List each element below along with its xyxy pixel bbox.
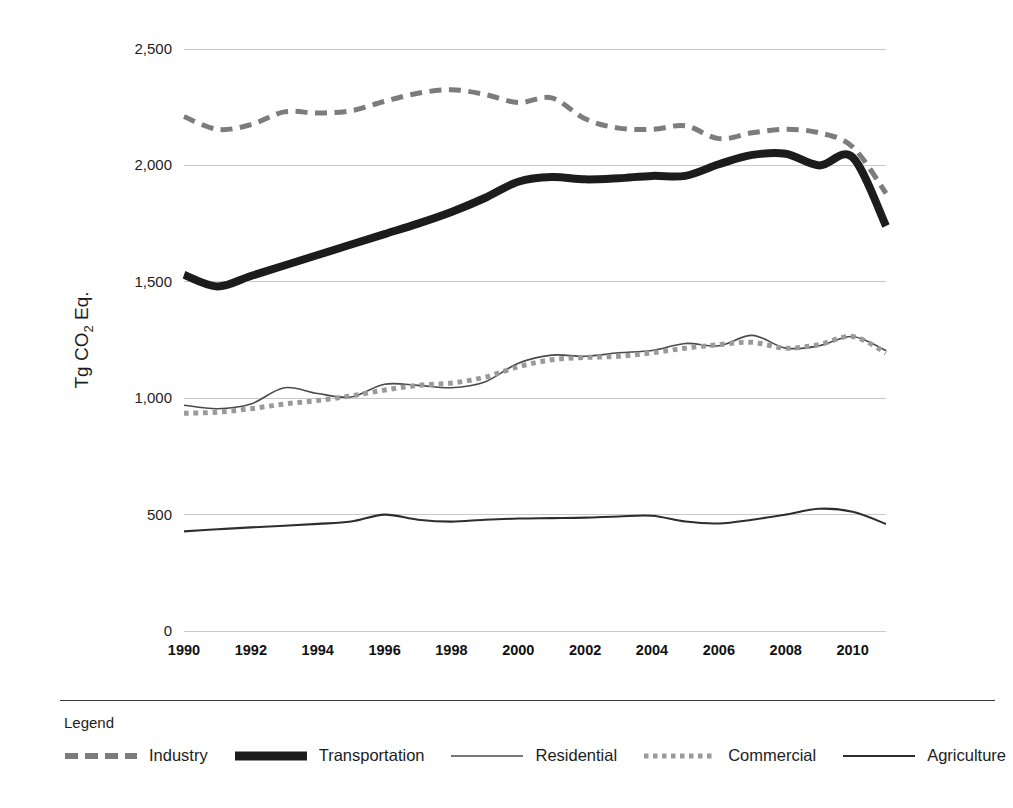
legend-item-agriculture[interactable]: Agriculture bbox=[842, 746, 1006, 765]
series-line-commercial bbox=[184, 336, 886, 413]
y-axis-tick-label: 0 bbox=[164, 622, 172, 639]
legend-swatch-thick-solid-icon bbox=[234, 749, 308, 763]
y-axis-tick-label: 2,000 bbox=[134, 156, 172, 173]
chart-plot-area: 05001,0001,5002,0002,5001990199219941996… bbox=[0, 0, 1013, 690]
legend-swatch-dotted-icon bbox=[643, 749, 717, 763]
legend-item-label: Agriculture bbox=[927, 746, 1006, 765]
legend-item-label: Commercial bbox=[728, 746, 816, 765]
x-axis-tick-label: 2004 bbox=[636, 642, 668, 658]
legend-item-label: Industry bbox=[149, 746, 208, 765]
legend-item-residential[interactable]: Residential bbox=[450, 746, 617, 765]
legend-separator bbox=[60, 700, 995, 701]
chart-legend: Legend IndustryTransportationResidential… bbox=[0, 690, 1013, 808]
series-line-agriculture bbox=[184, 509, 886, 532]
y-axis-title: Tg CO2 Eq. bbox=[71, 292, 96, 389]
series-line-transportation bbox=[184, 153, 886, 287]
legend-swatch-thin-solid-icon bbox=[450, 749, 524, 763]
x-axis-tick-label: 2006 bbox=[703, 642, 735, 658]
legend-item-label: Transportation bbox=[319, 746, 425, 765]
legend-swatch-thin-solid-icon bbox=[842, 749, 916, 763]
legend-title: Legend bbox=[64, 714, 114, 731]
y-axis-tick-label: 2,500 bbox=[134, 40, 172, 57]
x-axis-tick-label: 1990 bbox=[168, 642, 200, 658]
svg-text:Tg CO2 Eq.: Tg CO2 Eq. bbox=[71, 292, 96, 389]
x-axis-tick-label: 2002 bbox=[569, 642, 601, 658]
x-axis-tick-label: 1998 bbox=[435, 642, 467, 658]
legend-item-list: IndustryTransportationResidentialCommerc… bbox=[64, 746, 999, 765]
legend-item-label: Residential bbox=[535, 746, 617, 765]
y-axis-tick-label: 1,500 bbox=[134, 273, 172, 290]
x-axis-tick-label: 1996 bbox=[368, 642, 400, 658]
legend-swatch-dashed-icon bbox=[64, 749, 138, 763]
legend-item-industry[interactable]: Industry bbox=[64, 746, 208, 765]
x-axis-tick-label: 2000 bbox=[502, 642, 534, 658]
y-axis-tick-label: 1,000 bbox=[134, 389, 172, 406]
x-axis-tick-label: 1994 bbox=[302, 642, 334, 658]
x-axis-tick-label: 2010 bbox=[836, 642, 868, 658]
emissions-line-chart-figure: 05001,0001,5002,0002,5001990199219941996… bbox=[0, 0, 1013, 808]
legend-item-transportation[interactable]: Transportation bbox=[234, 746, 425, 765]
legend-item-commercial[interactable]: Commercial bbox=[643, 746, 816, 765]
x-axis-tick-label: 2008 bbox=[770, 642, 802, 658]
x-axis-tick-label: 1992 bbox=[235, 642, 267, 658]
y-axis-tick-label: 500 bbox=[147, 506, 172, 523]
chart-svg: 05001,0001,5002,0002,5001990199219941996… bbox=[0, 0, 1013, 690]
